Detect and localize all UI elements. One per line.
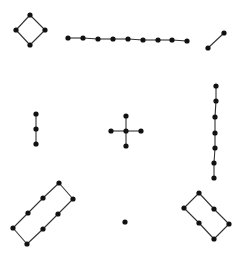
graph-node bbox=[123, 143, 128, 148]
graph-node bbox=[169, 37, 174, 42]
graph-edge bbox=[214, 224, 229, 239]
graph-node bbox=[10, 225, 15, 230]
graph-edge bbox=[58, 199, 73, 214]
graph-node bbox=[25, 210, 30, 215]
graph-node bbox=[123, 128, 128, 133]
graph-edge bbox=[13, 228, 27, 244]
graph-edge bbox=[27, 229, 43, 244]
component-isolated-vertex-nodes bbox=[122, 219, 127, 224]
component-path-9-horizontal-nodes bbox=[65, 35, 189, 43]
graph-node bbox=[212, 114, 217, 119]
graph-node bbox=[33, 111, 38, 116]
graph-edge bbox=[208, 33, 224, 48]
graph-node bbox=[95, 36, 100, 41]
graph-node bbox=[55, 211, 60, 216]
graph-node bbox=[196, 190, 201, 195]
graph-node bbox=[211, 206, 216, 211]
graph-node bbox=[138, 128, 143, 133]
graph-node bbox=[122, 219, 127, 224]
graph-node bbox=[155, 37, 160, 42]
graph-node bbox=[80, 35, 85, 40]
graph-node bbox=[110, 36, 115, 41]
graph-node bbox=[205, 45, 210, 50]
graph-node bbox=[56, 180, 61, 185]
graph-node bbox=[184, 38, 189, 43]
component-path-7-vertical-nodes bbox=[211, 83, 218, 180]
graph-edge bbox=[16, 30, 30, 45]
graph-node bbox=[125, 36, 130, 41]
graph-node bbox=[211, 175, 216, 180]
graph-edge bbox=[199, 193, 214, 209]
graph-node bbox=[140, 37, 145, 42]
nodes-layer bbox=[10, 12, 231, 246]
graph-edge bbox=[43, 183, 59, 198]
component-cycle-8-rectangle-edges bbox=[13, 183, 73, 244]
graph-node bbox=[123, 113, 128, 118]
graph-node bbox=[211, 236, 216, 241]
graph-node bbox=[181, 205, 186, 210]
component-cycle-6-rectangle-nodes bbox=[181, 190, 231, 241]
graph-node bbox=[42, 27, 47, 32]
graph-node bbox=[27, 42, 32, 47]
graph-node bbox=[221, 30, 226, 35]
graph-edge bbox=[28, 198, 43, 213]
graph-node bbox=[65, 35, 70, 40]
graph-node bbox=[40, 195, 45, 200]
graph-node bbox=[40, 226, 45, 231]
graph-node bbox=[226, 221, 231, 226]
graph-node bbox=[27, 12, 32, 17]
graph-node bbox=[70, 196, 75, 201]
graph-node bbox=[24, 241, 29, 246]
graph-node bbox=[212, 130, 217, 135]
graph-edge bbox=[199, 223, 214, 239]
graph-edge bbox=[30, 30, 45, 45]
graph-node bbox=[33, 126, 38, 131]
graph-node bbox=[108, 128, 113, 133]
graph-diagram bbox=[0, 0, 245, 260]
graph-node bbox=[196, 220, 201, 225]
graph-node bbox=[13, 27, 18, 32]
edges-layer bbox=[13, 15, 229, 244]
graph-edge bbox=[184, 208, 199, 223]
component-cycle-4-diamond-nodes bbox=[13, 12, 47, 47]
component-cycle-6-rectangle-edges bbox=[184, 193, 229, 239]
component-cycle-4-diamond-edges bbox=[16, 15, 45, 45]
component-path-2-edge-edges bbox=[208, 33, 224, 48]
graph-node bbox=[211, 160, 216, 165]
graph-node bbox=[213, 83, 218, 88]
graph-edge bbox=[43, 214, 58, 229]
graph-edge bbox=[214, 209, 229, 224]
graph-edge bbox=[184, 193, 199, 208]
graph-edge bbox=[16, 15, 30, 30]
graph-node bbox=[33, 141, 38, 146]
graph-edge bbox=[59, 183, 73, 199]
graph-node bbox=[213, 98, 218, 103]
graph-edge bbox=[30, 15, 45, 30]
graph-edge bbox=[13, 213, 28, 228]
graph-node bbox=[212, 145, 217, 150]
